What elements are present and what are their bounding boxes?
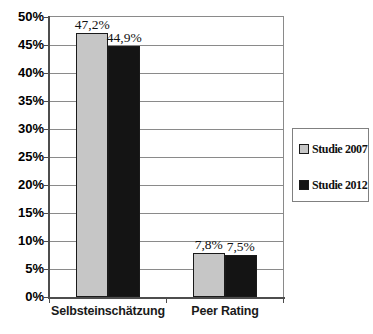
bar-value-label: 44,9% xyxy=(94,30,154,46)
legend-label-studie-2012: Studie 2012 xyxy=(312,178,367,193)
plot-right-border xyxy=(283,17,284,297)
studie-2007-swatch-icon xyxy=(299,144,309,154)
legend-entry-studie-2012: Studie 2012 xyxy=(299,178,367,192)
bar-value-label: 7,5% xyxy=(211,239,271,255)
bar-studie-2012 xyxy=(225,255,257,297)
legend-label-studie-2007: Studie 2007 xyxy=(312,142,367,157)
bar-studie-2007 xyxy=(193,253,225,297)
legend-entry-studie-2007: Studie 2007 xyxy=(299,142,367,156)
bar-studie-2012 xyxy=(108,46,140,297)
bar-chart: 50%45%40%35%30%25%20%15%10%5%0% 47,2%44,… xyxy=(0,0,373,334)
plot-area: 47,2%44,9%7,8%7,5% xyxy=(50,17,283,297)
studie-2012-swatch-icon xyxy=(299,180,309,190)
bar-studie-2007 xyxy=(76,33,108,297)
category-label-peer-rating: Peer Rating xyxy=(135,303,315,320)
legend: Studie 2007 Studie 2012 xyxy=(292,128,369,202)
